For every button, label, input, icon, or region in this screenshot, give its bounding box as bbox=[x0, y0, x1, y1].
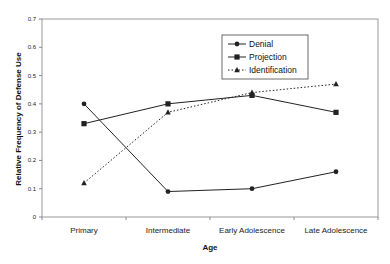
series-identification bbox=[81, 81, 339, 185]
square-marker-icon bbox=[333, 110, 338, 115]
y-tick-label: 0 bbox=[33, 214, 37, 220]
y-tick-label: 0.7 bbox=[28, 16, 37, 22]
triangle-marker-icon bbox=[249, 90, 255, 95]
legend-label: Identification bbox=[249, 65, 297, 75]
y-tick-label: 0.6 bbox=[28, 44, 37, 50]
series-line bbox=[84, 84, 336, 183]
circle-marker-icon bbox=[334, 169, 339, 174]
x-tick-label: Primary bbox=[70, 226, 98, 235]
x-tick-label: Early Adolescence bbox=[219, 226, 285, 235]
x-axis-ticks: PrimaryIntermediateEarly AdolescenceLate… bbox=[42, 217, 378, 235]
x-tick-label: Intermediate bbox=[146, 226, 191, 235]
plot-area bbox=[42, 19, 378, 217]
y-tick-label: 0.3 bbox=[28, 129, 37, 135]
plot-border bbox=[42, 19, 378, 217]
y-tick-label: 0.1 bbox=[28, 186, 37, 192]
circle-marker-icon bbox=[250, 186, 255, 191]
series-projection bbox=[81, 93, 338, 126]
x-tick-label: Late Adolescence bbox=[304, 226, 368, 235]
circle-marker-icon bbox=[235, 42, 240, 47]
circle-marker-icon bbox=[82, 101, 87, 106]
y-tick-label: 0.2 bbox=[28, 157, 37, 163]
triangle-marker-icon bbox=[81, 180, 87, 185]
y-tick-label: 0.5 bbox=[28, 73, 37, 79]
data-series bbox=[81, 81, 339, 194]
triangle-marker-icon bbox=[165, 109, 171, 114]
y-tick-label: 0.4 bbox=[28, 101, 37, 107]
square-marker-icon bbox=[165, 101, 170, 106]
legend-label: Denial bbox=[249, 39, 273, 49]
series-line bbox=[84, 95, 336, 123]
x-axis-title: Age bbox=[202, 243, 218, 252]
y-axis-ticks: 00.10.20.30.40.50.60.7 bbox=[28, 16, 42, 220]
legend-label: Projection bbox=[249, 52, 287, 62]
square-marker-icon bbox=[234, 54, 239, 59]
square-marker-icon bbox=[81, 121, 86, 126]
circle-marker-icon bbox=[166, 189, 171, 194]
series-line bbox=[84, 104, 336, 192]
legend: DenialProjectionIdentification bbox=[222, 35, 308, 79]
line-chart: 00.10.20.30.40.50.60.7 PrimaryIntermedia… bbox=[0, 0, 390, 264]
y-axis-title: Relative Frequency of Defense Use bbox=[14, 52, 23, 186]
triangle-marker-icon bbox=[333, 81, 339, 86]
